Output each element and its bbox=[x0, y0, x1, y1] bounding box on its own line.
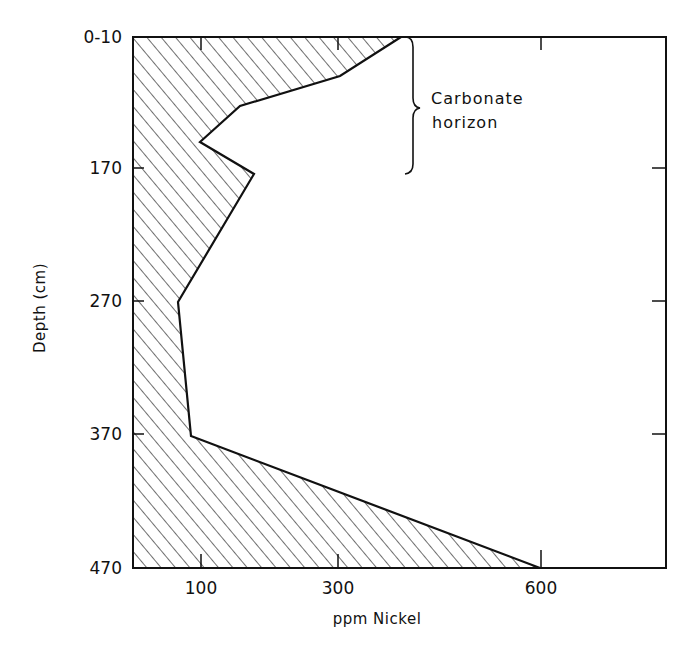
y-tick-label: 0-10 bbox=[83, 27, 122, 47]
carbonate-horizon-label: horizon bbox=[432, 113, 498, 132]
x-axis-title: ppm Nickel bbox=[333, 610, 422, 628]
carbonate-brace-icon bbox=[405, 37, 420, 174]
y-tick-label: 170 bbox=[90, 158, 122, 178]
y-tick-label: 470 bbox=[90, 558, 122, 578]
y-axis-title: Depth (cm) bbox=[31, 263, 49, 353]
x-tick-label: 600 bbox=[525, 578, 557, 598]
y-ticks-right bbox=[652, 168, 666, 434]
x-tick-label: 100 bbox=[185, 578, 217, 598]
y-tick-label: 370 bbox=[90, 424, 122, 444]
carbonate-horizon-label: Carbonate bbox=[431, 89, 524, 108]
nickel-depth-chart: 0-10 170 270 370 470 100 300 600 ppm Nic… bbox=[0, 0, 696, 652]
x-tick-label: 300 bbox=[322, 578, 354, 598]
y-tick-label: 270 bbox=[90, 291, 122, 311]
